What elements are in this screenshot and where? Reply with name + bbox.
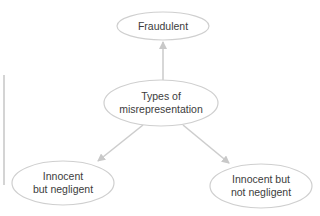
label-center: Types of misrepresentation bbox=[119, 90, 202, 116]
label-line: Fraudulent bbox=[138, 20, 188, 33]
label-line: Innocent but bbox=[231, 173, 291, 186]
label-line: but negligent bbox=[33, 183, 93, 196]
label-innocent-negligent: Innocent but negligent bbox=[33, 170, 93, 196]
label-innocent-not-negligent: Innocent but not negligent bbox=[231, 173, 291, 199]
label-line: Innocent bbox=[33, 170, 93, 183]
edge-to-innocent-negligent bbox=[98, 125, 143, 161]
label-line: Types of bbox=[119, 90, 202, 103]
label-fraudulent: Fraudulent bbox=[138, 20, 188, 33]
label-line: misrepresentation bbox=[119, 103, 202, 116]
edge-to-innocent-not-negligent bbox=[183, 125, 229, 163]
label-line: not negligent bbox=[231, 186, 291, 199]
